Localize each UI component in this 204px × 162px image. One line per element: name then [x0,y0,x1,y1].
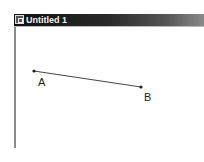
point-a[interactable] [32,69,35,72]
point-b-label: B [144,91,151,103]
segment-ab[interactable] [34,71,141,87]
point-a-label: A [38,76,45,88]
point-b[interactable] [139,85,142,88]
sketch-canvas[interactable] [0,0,204,162]
